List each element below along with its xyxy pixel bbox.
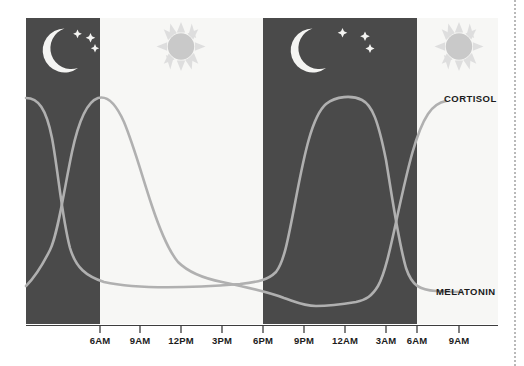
sun-icon — [435, 22, 484, 71]
series-label-cortisol: CORTISOL — [444, 93, 497, 104]
x-tick-label: 12PM — [168, 335, 194, 346]
series-label-melatonin: MELATONIN — [436, 286, 496, 297]
x-tick-label: 9AM — [449, 335, 470, 346]
x-tick-label: 3PM — [212, 335, 232, 346]
circadian-rhythm-chart: 6AM 9AM 12PM 3PM 6PM 9PM 12AM 3AM 6AM 9A… — [0, 0, 524, 366]
x-tick-label: 6AM — [90, 335, 111, 346]
x-tick-label: 6AM — [407, 335, 428, 346]
sun-icon — [157, 22, 206, 71]
night-panel-left — [26, 18, 100, 324]
chart-canvas: 6AM 9AM 12PM 3PM 6PM 9PM 12AM 3AM 6AM 9A… — [0, 0, 524, 366]
x-tick-label: 9PM — [294, 335, 314, 346]
axis-ticks — [100, 325, 459, 333]
x-axis — [26, 325, 498, 333]
x-tick-label: 12AM — [332, 335, 358, 346]
x-tick-label: 3AM — [376, 335, 397, 346]
x-tick-label: 6PM — [253, 335, 273, 346]
page-edge-divider — [514, 0, 516, 366]
x-tick-labels: 6AM 9AM 12PM 3PM 6PM 9PM 12AM 3AM 6AM 9A… — [90, 335, 470, 346]
night-panel-right — [263, 18, 417, 324]
x-tick-label: 9AM — [130, 335, 151, 346]
